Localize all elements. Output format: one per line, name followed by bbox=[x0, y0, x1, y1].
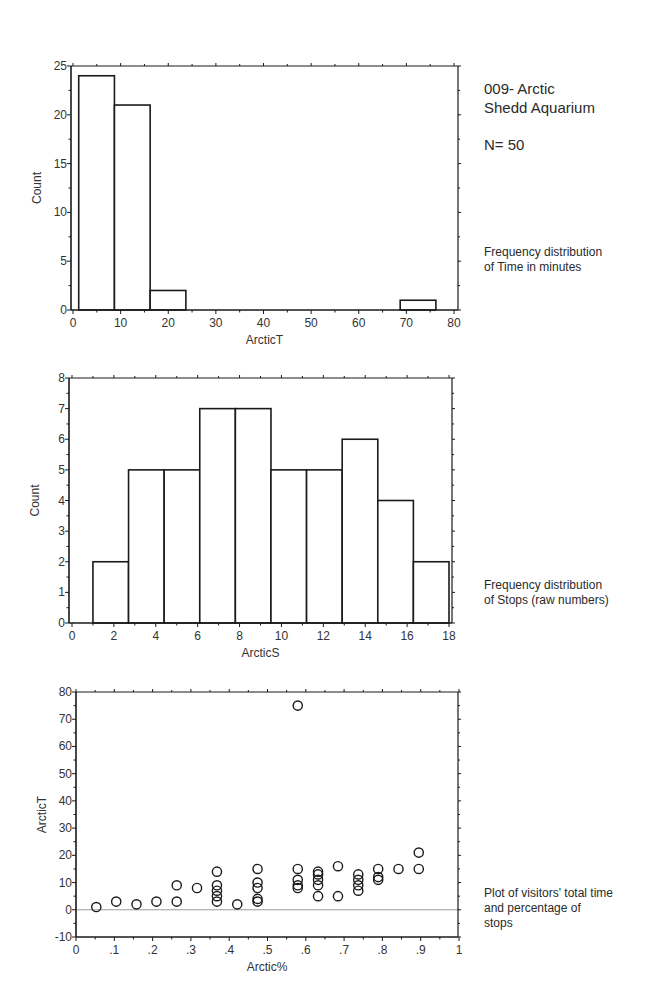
x-tick-label: 1 bbox=[456, 943, 463, 957]
x-tick-label: 0 bbox=[69, 629, 76, 643]
y-axis-label: Count bbox=[28, 484, 42, 517]
data-point bbox=[233, 900, 242, 909]
x-tick-label: 6 bbox=[194, 629, 201, 643]
x-tick-label: .8 bbox=[377, 943, 387, 957]
histogram-bar bbox=[235, 409, 271, 623]
histogram-bar bbox=[307, 470, 343, 623]
x-axis-label: ArcticS bbox=[241, 646, 279, 660]
y-tick-label: 20 bbox=[59, 848, 73, 862]
x-tick-label: 10 bbox=[114, 316, 128, 330]
charts-canvas: 010203040506070800510152025ArcticTCount … bbox=[0, 0, 653, 1008]
data-point bbox=[333, 862, 342, 871]
x-tick-label: 16 bbox=[400, 629, 414, 643]
data-point bbox=[333, 892, 342, 901]
x-tick-label: .4 bbox=[224, 943, 234, 957]
y-tick-label: 10 bbox=[54, 205, 68, 219]
y-tick-label: 80 bbox=[59, 685, 73, 699]
data-point bbox=[253, 883, 262, 892]
exhibit-title-line2: Shedd Aquarium bbox=[484, 98, 595, 117]
histogram-bar bbox=[150, 290, 186, 310]
x-tick-label: .2 bbox=[148, 943, 158, 957]
data-point bbox=[132, 900, 141, 909]
x-tick-label: 60 bbox=[352, 316, 366, 330]
data-point bbox=[172, 897, 181, 906]
data-point bbox=[414, 864, 423, 873]
x-tick-label: 8 bbox=[236, 629, 243, 643]
x-tick-label: 18 bbox=[442, 629, 456, 643]
y-tick-label: 1 bbox=[58, 585, 65, 599]
y-tick-label: 6 bbox=[58, 432, 65, 446]
y-tick-label: 5 bbox=[60, 254, 67, 268]
x-tick-label: .7 bbox=[339, 943, 349, 957]
data-point bbox=[354, 886, 363, 895]
histogram-bar bbox=[378, 501, 414, 624]
x-tick-label: .1 bbox=[109, 943, 119, 957]
y-tick-label: 25 bbox=[54, 59, 68, 73]
x-tick-label: 0 bbox=[73, 943, 80, 957]
x-tick-label: .5 bbox=[262, 943, 272, 957]
y-tick-label: 15 bbox=[54, 157, 68, 171]
data-point bbox=[112, 897, 121, 906]
data-point bbox=[394, 864, 403, 873]
y-tick-label: 0 bbox=[58, 616, 65, 630]
y-tick-label: 0 bbox=[60, 303, 67, 317]
histogram-bar bbox=[342, 439, 378, 623]
histogram-bar bbox=[400, 300, 436, 310]
y-tick-label: 10 bbox=[59, 876, 73, 890]
x-tick-label: 80 bbox=[447, 316, 461, 330]
y-tick-label: 0 bbox=[65, 903, 72, 917]
data-point bbox=[293, 864, 302, 873]
time-vs-percent-scatter: 0.1.2.3.4.5.6.7.8.91-1001020304050607080… bbox=[35, 685, 463, 974]
data-point bbox=[152, 897, 161, 906]
y-tick-label: 40 bbox=[59, 794, 73, 808]
data-point bbox=[293, 701, 302, 710]
sample-size: N= 50 bbox=[484, 135, 524, 154]
histogram-bar bbox=[114, 105, 150, 310]
data-point bbox=[212, 867, 221, 876]
exhibit-title: 009- Arctic Shedd Aquarium bbox=[484, 79, 595, 117]
x-tick-label: 4 bbox=[152, 629, 159, 643]
x-tick-label: 12 bbox=[317, 629, 331, 643]
x-tick-label: 40 bbox=[257, 316, 271, 330]
x-tick-label: 50 bbox=[304, 316, 318, 330]
x-axis-label: ArcticT bbox=[246, 333, 284, 347]
time-histogram: 010203040506070800510152025ArcticTCount bbox=[30, 59, 461, 347]
histogram-bar bbox=[93, 562, 129, 623]
histogram-bar bbox=[164, 470, 200, 623]
y-tick-label: 7 bbox=[58, 402, 65, 416]
data-point bbox=[192, 883, 201, 892]
y-tick-label: -10 bbox=[55, 930, 73, 944]
x-tick-label: 2 bbox=[111, 629, 118, 643]
exhibit-title-line1: 009- Arctic bbox=[484, 79, 595, 98]
chart1-caption-line2: of Time in minutes bbox=[484, 260, 602, 275]
x-axis-label: Arctic% bbox=[247, 960, 288, 974]
x-tick-label: 70 bbox=[400, 316, 414, 330]
x-tick-label: 10 bbox=[275, 629, 289, 643]
chart2-caption: Frequency distribution of Stops (raw num… bbox=[484, 578, 609, 608]
chart3-caption-line1: Plot of visitors' total time bbox=[484, 886, 613, 901]
histogram-bar bbox=[129, 470, 165, 623]
data-point bbox=[313, 881, 322, 890]
data-point bbox=[313, 892, 322, 901]
data-point bbox=[212, 897, 221, 906]
histogram-bar bbox=[271, 470, 307, 623]
x-tick-label: .6 bbox=[301, 943, 311, 957]
stops-histogram: 024681012141618012345678ArcticSCount bbox=[28, 371, 456, 660]
y-tick-label: 8 bbox=[58, 371, 65, 385]
chart2-caption-line2: of Stops (raw numbers) bbox=[484, 593, 609, 608]
histogram-bar bbox=[200, 409, 236, 623]
chart3-caption-line2: and percentage of bbox=[484, 901, 613, 916]
x-tick-label: 20 bbox=[162, 316, 176, 330]
chart3-caption-line3: stops bbox=[484, 916, 613, 931]
x-tick-label: 30 bbox=[209, 316, 223, 330]
chart1-caption-line1: Frequency distribution bbox=[484, 245, 602, 260]
y-tick-label: 70 bbox=[59, 712, 73, 726]
y-axis-label: Count bbox=[30, 171, 44, 204]
chart1-caption: Frequency distribution of Time in minute… bbox=[484, 245, 602, 275]
y-tick-label: 30 bbox=[59, 821, 73, 835]
x-tick-label: .3 bbox=[186, 943, 196, 957]
y-tick-label: 5 bbox=[58, 463, 65, 477]
chart2-caption-line1: Frequency distribution bbox=[484, 578, 609, 593]
y-tick-label: 2 bbox=[58, 555, 65, 569]
chart3-caption: Plot of visitors' total time and percent… bbox=[484, 886, 613, 931]
